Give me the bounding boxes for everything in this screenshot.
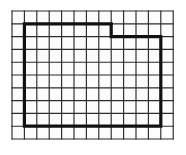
figure-root [0,0,186,155]
grid-diagram [0,0,186,155]
